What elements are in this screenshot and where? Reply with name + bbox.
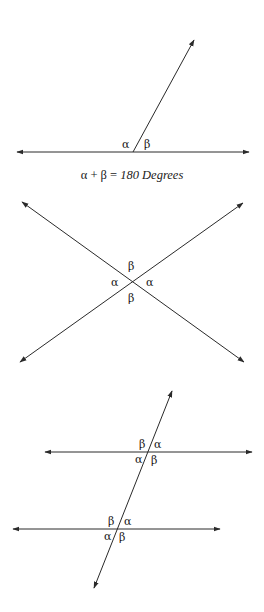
upper-alpha-top-right: α — [154, 438, 162, 451]
caption-rhs: 180 Degrees — [120, 168, 183, 182]
lower-beta-bottom-right: β — [119, 531, 125, 544]
ray — [133, 40, 194, 152]
transversal-line — [94, 391, 172, 588]
beta-bottom-label: β — [128, 292, 134, 305]
beta-top-label: β — [128, 260, 134, 273]
alpha-left-label: α — [111, 276, 119, 289]
angles-diagram-canvas: α β α + β = 180 Degrees β α α β β α α β … — [0, 0, 264, 612]
vertical-angles-figure: β α α β — [20, 202, 244, 362]
upper-beta-bottom-right: β — [151, 454, 157, 467]
lower-alpha-top-right: α — [124, 515, 132, 528]
lower-beta-top-left: β — [108, 515, 114, 528]
lower-alpha-bottom-left: α — [104, 530, 112, 543]
alpha-right-label: α — [146, 276, 154, 289]
line-ascending — [20, 203, 243, 362]
caption-lhs: α + β = — [81, 168, 121, 182]
supplementary-angles-figure: α β α + β = 180 Degrees — [17, 40, 249, 182]
beta-label: β — [144, 138, 150, 151]
alpha-label: α — [122, 138, 130, 151]
upper-beta-top-left: β — [139, 438, 145, 451]
parallel-lines-figure: β α α β β α α β — [13, 391, 252, 588]
sum-caption: α + β = 180 Degrees — [81, 168, 184, 182]
upper-alpha-bottom-left: α — [135, 453, 143, 466]
